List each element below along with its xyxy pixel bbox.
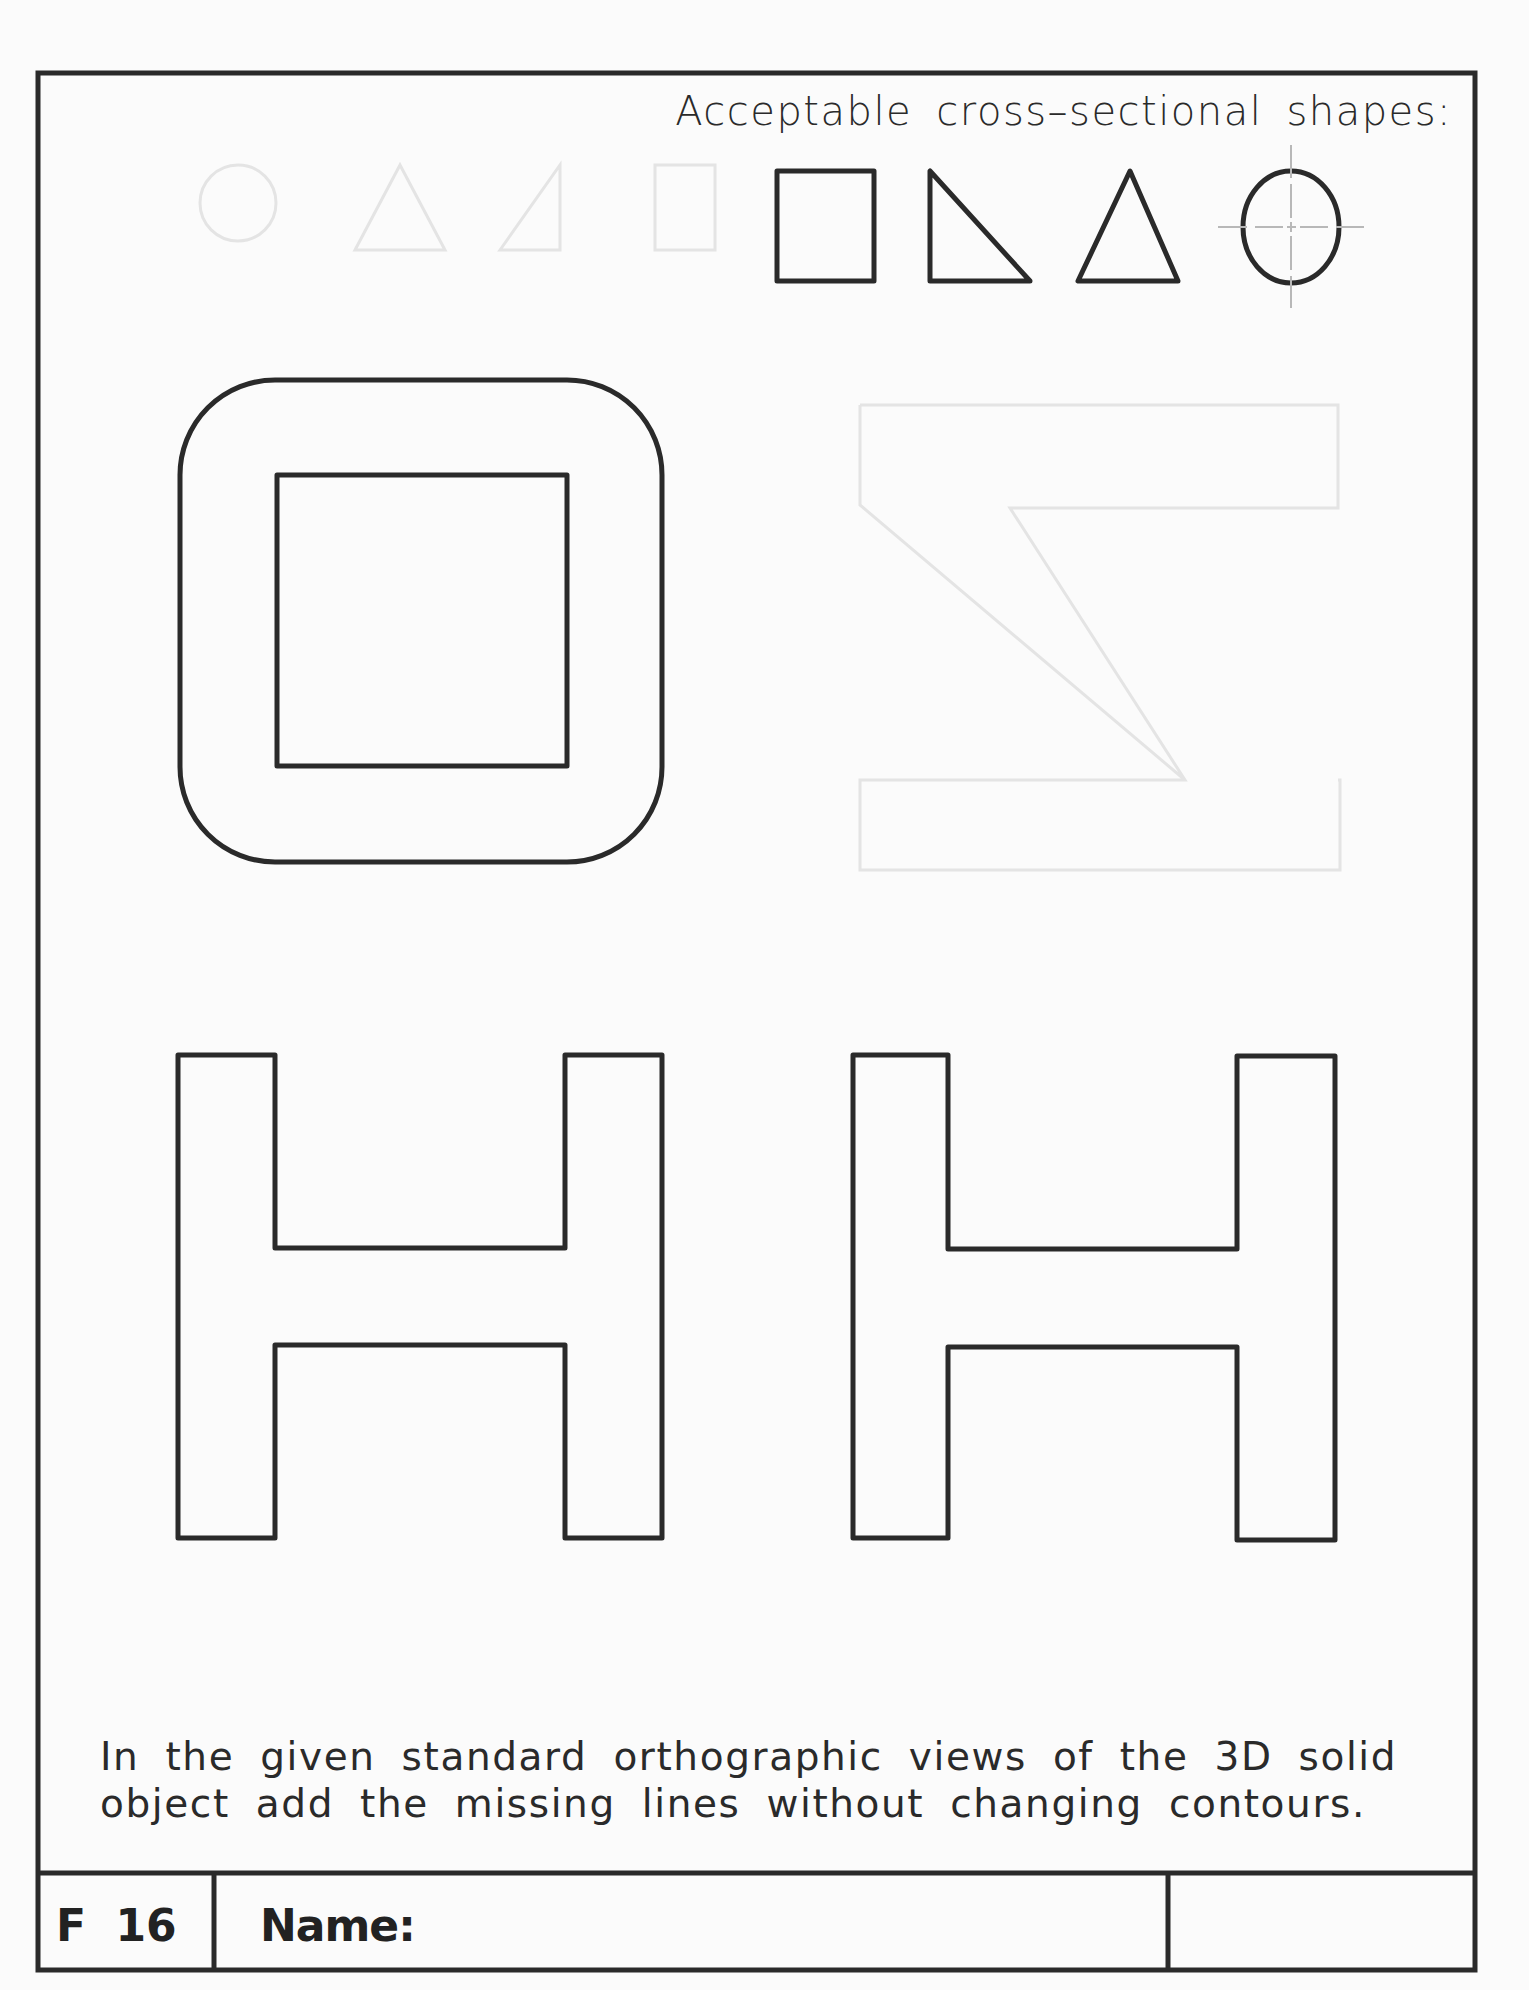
triangle-shape-icon: [1078, 171, 1178, 281]
acceptable-shapes-heading: Acceptable cross–sectional shapes:: [660, 88, 1452, 134]
instructions-text: In the given standard orthographic views…: [100, 1733, 1410, 1827]
top-view-outer-contour: [180, 380, 662, 862]
title-block-extra-cell: [1172, 1880, 1470, 1964]
right-triangle-shape-icon: [930, 171, 1030, 281]
top-view: [180, 380, 662, 862]
circle-centerlines: [1218, 145, 1364, 308]
instructions-line-2: object add the missing lines without cha…: [100, 1780, 1410, 1827]
front-view-h-profile: [178, 1055, 662, 1538]
top-view-inner-square: [277, 475, 567, 766]
instructions-line-1: In the given standard orthographic views…: [100, 1733, 1410, 1780]
sheet-id: F 16: [56, 1900, 177, 1951]
square-shape-icon: [777, 171, 874, 281]
drawing-sheet: [0, 0, 1529, 1990]
name-label: Name:: [260, 1900, 415, 1951]
side-view-h-profile: [853, 1055, 1335, 1540]
name-field[interactable]: [400, 1880, 1160, 1964]
sheet-border: [38, 73, 1475, 1970]
